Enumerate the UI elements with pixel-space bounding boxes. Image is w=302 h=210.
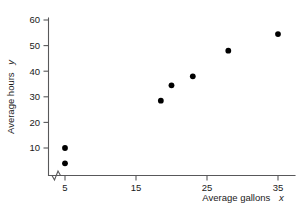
y-tick-label: 60: [29, 14, 40, 25]
x-axis-title: Average gallons x: [202, 192, 285, 203]
data-point: [62, 160, 68, 166]
x-tick-label: 5: [62, 182, 67, 193]
data-point: [169, 82, 175, 88]
y-axis-title: Average hours y: [5, 59, 16, 134]
data-points-group: [62, 31, 281, 166]
plot-canvas: 102030405060 5152535 Average hours y Ave…: [0, 0, 302, 210]
data-point: [158, 98, 164, 104]
svg-text:Average gallons x: Average gallons x: [202, 192, 285, 203]
y-tick-label: 20: [29, 117, 40, 128]
y-axis-title-variable: y: [5, 59, 16, 66]
y-axis-tick-labels: 102030405060: [29, 14, 40, 153]
scatter-plot-figure: 102030405060 5152535 Average hours y Ave…: [0, 0, 302, 210]
y-axis-title-text: Average hours: [5, 72, 16, 134]
svg-text:Average hours y: Average hours y: [5, 59, 16, 134]
y-axis-ticks: [44, 20, 49, 148]
x-axis-ticks: [65, 176, 278, 181]
y-tick-label: 40: [29, 66, 40, 77]
x-axis-title-variable: x: [278, 192, 285, 203]
x-axis-title-text: Average gallons: [202, 192, 270, 203]
x-tick-label: 15: [131, 182, 142, 193]
data-point: [275, 31, 281, 37]
y-tick-label: 50: [29, 40, 40, 51]
data-point: [62, 145, 68, 151]
data-point: [225, 48, 231, 54]
y-tick-label: 10: [29, 142, 40, 153]
data-point: [190, 73, 196, 79]
y-tick-label: 30: [29, 91, 40, 102]
axes-group: [49, 18, 296, 180]
